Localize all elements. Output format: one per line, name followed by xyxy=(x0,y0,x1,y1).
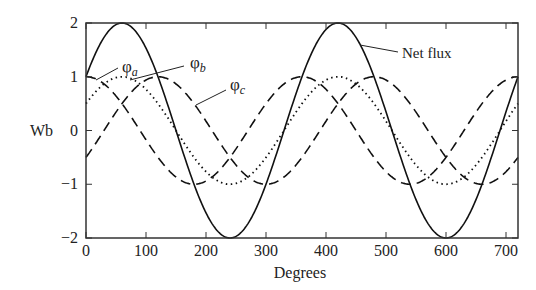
plot-curves xyxy=(86,23,518,238)
x-tick-label: 600 xyxy=(434,242,458,259)
x-tick-label: 200 xyxy=(194,242,218,259)
series-φa xyxy=(86,77,518,185)
label-phi-a: φa xyxy=(122,57,138,79)
plot-frame xyxy=(86,23,518,238)
y-tick-label: −2 xyxy=(61,229,78,246)
y-axis-label: Wb xyxy=(30,122,53,139)
label-phi-b: φb xyxy=(190,53,206,75)
x-axis-label: Degrees xyxy=(274,264,326,282)
series-φb xyxy=(86,77,518,185)
x-tick-label: 0 xyxy=(82,242,90,259)
label-net-flux: Net flux xyxy=(402,45,452,61)
label-phi-c: φc xyxy=(230,75,246,97)
series-φc xyxy=(86,77,518,185)
x-tick-label: 100 xyxy=(134,242,158,259)
x-tick-label: 700 xyxy=(494,242,518,259)
y-tick-label: 2 xyxy=(70,14,78,31)
y-tick-label: −1 xyxy=(61,175,78,192)
series-net-flux xyxy=(86,23,518,238)
flux-chart: 0100200300400500600700210−1−2 Wb Degrees… xyxy=(0,0,536,290)
x-tick-label: 500 xyxy=(374,242,398,259)
y-tick-label: 1 xyxy=(70,68,78,85)
x-tick-label: 400 xyxy=(314,242,338,259)
x-tick-label: 300 xyxy=(254,242,278,259)
y-tick-label: 0 xyxy=(70,122,78,139)
annotations xyxy=(96,45,398,105)
